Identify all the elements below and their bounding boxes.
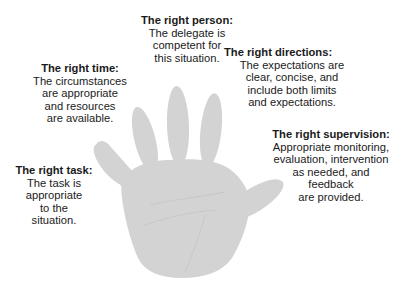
callout-line: The task is <box>14 177 94 190</box>
callout-line: situation. <box>14 214 94 227</box>
callout-line: as needed, and <box>265 166 397 179</box>
callout-line: include both limits <box>224 84 360 97</box>
callout-line: evaluation, intervention <box>265 153 397 166</box>
callout-line: and resources <box>30 100 130 113</box>
callout-line: feedback <box>265 178 397 191</box>
callout-line: are available. <box>30 112 130 125</box>
callout-right-supervision: The right supervision: Appropriate monit… <box>265 128 397 204</box>
callout-title: The right directions: <box>224 46 360 59</box>
callout-line: are provided. <box>265 191 397 204</box>
callout-line: and expectations. <box>224 96 360 109</box>
callout-line: appropriate <box>14 189 94 202</box>
callout-title: The right person: <box>127 14 247 27</box>
callout-line: The delegate is <box>127 27 247 40</box>
callout-line: are appropriate <box>30 87 130 100</box>
callout-line: to the <box>14 202 94 215</box>
callout-title: The right time: <box>30 62 130 75</box>
callout-line: Appropriate monitoring, <box>265 141 397 154</box>
callout-right-task: The right task: The task is appropriate … <box>14 164 94 227</box>
callout-title: The right task: <box>14 164 94 177</box>
callout-line: The circumstances <box>30 75 130 88</box>
callout-line: The expectations are <box>224 59 360 72</box>
callout-right-time: The right time: The circumstances are ap… <box>30 62 130 125</box>
callout-line: clear, concise, and <box>224 71 360 84</box>
callout-right-directions: The right directions: The expectations a… <box>224 46 360 109</box>
callout-title: The right supervision: <box>265 128 397 141</box>
